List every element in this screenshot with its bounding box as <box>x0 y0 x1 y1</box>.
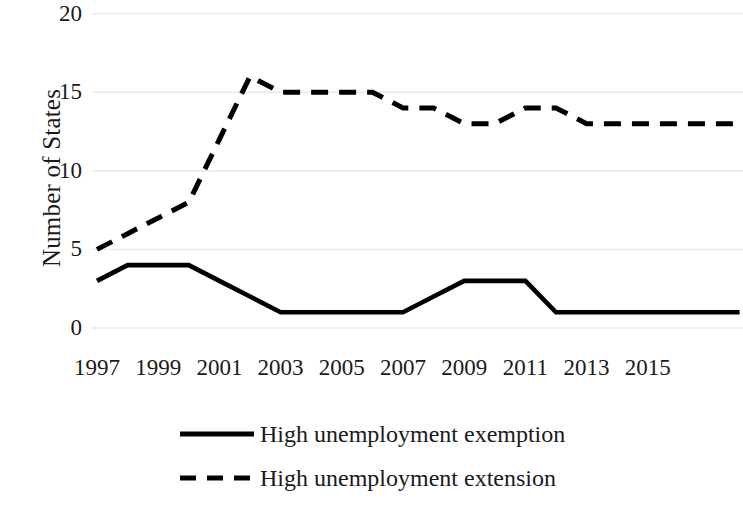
legend-item-exemption: High unemployment exemption <box>178 412 698 456</box>
legend-label-exemption: High unemployment exemption <box>260 421 565 447</box>
series-line-exemption <box>97 265 740 312</box>
chart-legend: High unemployment exemption High unemplo… <box>178 412 698 500</box>
legend-swatch-solid-icon <box>178 427 256 441</box>
legend-item-extension: High unemployment extension <box>178 456 698 500</box>
chart-figure: Number of States 05101520 19971999200120… <box>0 0 743 509</box>
series-line-extension <box>97 76 740 249</box>
legend-swatch-dashed-icon <box>178 471 256 485</box>
legend-label-extension: High unemployment extension <box>260 465 556 491</box>
gridlines <box>92 14 743 328</box>
